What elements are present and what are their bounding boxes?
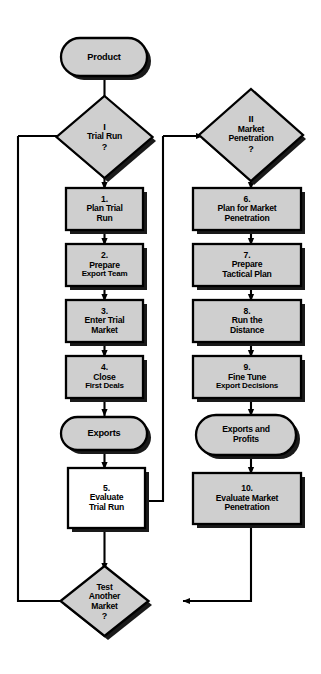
node-phase2 xyxy=(199,89,303,181)
edge-test-to-phase1 xyxy=(18,136,68,601)
node-step5 xyxy=(68,468,145,528)
node-step2 xyxy=(66,244,143,286)
node-product xyxy=(61,38,147,76)
node-step10 xyxy=(193,473,301,524)
node-phase1 xyxy=(57,96,153,178)
node-step3 xyxy=(66,300,143,342)
node-step1 xyxy=(66,188,143,230)
node-step4 xyxy=(66,356,143,398)
node-exports2 xyxy=(196,415,296,455)
node-step7 xyxy=(193,244,301,286)
node-step6 xyxy=(193,188,301,230)
node-exports1 xyxy=(61,417,147,450)
node-step8 xyxy=(193,300,301,342)
node-test xyxy=(61,566,149,636)
node-step9 xyxy=(193,356,301,398)
flowchart-canvas: Product I Trial Run ? II Market Penetrat… xyxy=(0,0,321,674)
edge-step10-to-test xyxy=(183,524,251,601)
flowchart-graphics xyxy=(0,0,321,674)
node-shape-group xyxy=(57,38,304,636)
